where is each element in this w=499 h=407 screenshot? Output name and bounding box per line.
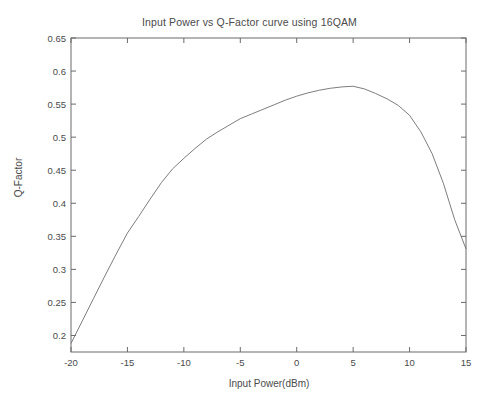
- data-series: [71, 86, 466, 343]
- chart-title: Input Power vs Q-Factor curve using 16QA…: [0, 16, 499, 28]
- x-tick-label: -10: [177, 357, 191, 368]
- y-tick-label: 0.6: [53, 66, 66, 77]
- y-tick-label: 0.4: [53, 198, 66, 209]
- series-line: [71, 86, 466, 343]
- y-tick-label: 0.25: [48, 297, 67, 308]
- x-tick-label: -20: [64, 357, 78, 368]
- y-tick-label: 0.45: [48, 165, 67, 176]
- x-tick-label: 10: [404, 357, 415, 368]
- y-tick-label: 0.3: [53, 264, 66, 275]
- x-tick-label: -5: [236, 357, 244, 368]
- x-tick-label: 15: [461, 357, 472, 368]
- x-tick-label: 5: [350, 357, 355, 368]
- plot-area: [0, 0, 499, 407]
- axis-ticks: [71, 38, 466, 352]
- y-tick-label: 0.2: [53, 330, 66, 341]
- y-tick-label: 0.65: [48, 33, 67, 44]
- chart-figure: Input Power vs Q-Factor curve using 16QA…: [0, 0, 499, 407]
- y-tick-label: 0.55: [48, 99, 67, 110]
- axes-box: [71, 38, 466, 352]
- x-axis-label: Input Power(dBm): [71, 378, 467, 389]
- x-tick-label: 0: [294, 357, 299, 368]
- y-tick-label: 0.35: [48, 231, 67, 242]
- y-axis-label: Q-Factor: [13, 138, 24, 218]
- y-tick-label: 0.5: [53, 132, 66, 143]
- x-tick-label: -15: [121, 357, 135, 368]
- y-axis-tick-labels: 0.20.250.30.350.40.450.50.550.60.65: [26, 0, 66, 407]
